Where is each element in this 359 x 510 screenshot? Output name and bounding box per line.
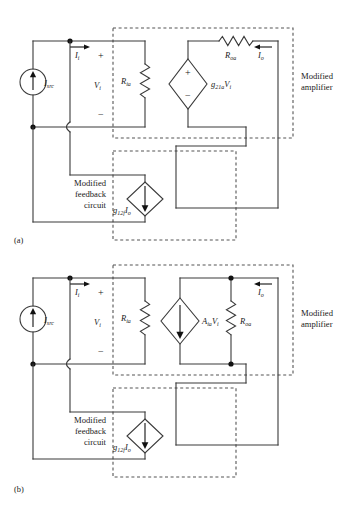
input-current-label-b: Ii: [74, 287, 80, 298]
dependent-source-label-b: AiaVi: [201, 316, 219, 327]
feedback-source-label-a: g12fIo: [113, 205, 131, 216]
current-source-a: [20, 41, 46, 127]
amplifier-box-label-a-line2: amplifier: [301, 82, 333, 92]
dependent-current-source-b: [161, 278, 199, 364]
input-current-arrow-b: [70, 281, 90, 286]
input-resistor-b: [140, 278, 149, 364]
panel-caption-b: (b): [14, 485, 24, 494]
dependent-source-label-a: g21aVi: [211, 79, 231, 90]
input-resistor-a: [140, 41, 149, 127]
labels-b: Isrc Ii + Vi − Ria AiaVi Roa Io Modified…: [14, 287, 334, 494]
feedback-current-source-a: [127, 175, 163, 222]
panel-a-diagram: Isrc Ii + Vi − Ria + − g21aVi Roa Io Mod…: [0, 0, 359, 255]
minus-sign-b: −: [98, 346, 104, 357]
feedback-box-label-a-line1: Modified: [74, 178, 107, 188]
feedback-box-label-a-line3: circuit: [84, 200, 107, 210]
input-current-arrow-a: [70, 44, 90, 49]
feedback-box-label-b-line2: feedback: [75, 426, 107, 436]
output-resistor-label-a: Roa: [224, 50, 236, 61]
node-dot-output-bottom-b: [228, 361, 233, 366]
amplifier-box-label-b-line1: Modified: [301, 308, 334, 318]
labels-a: Isrc Ii + Vi − Ria + − g21aVi Roa Io Mod…: [14, 50, 334, 245]
input-resistor-label-b: Ria: [120, 313, 131, 324]
input-voltage-label-b: Vi: [94, 317, 101, 328]
panel-b-diagram: Isrc Ii + Vi − Ria AiaVi Roa Io Modified…: [0, 255, 359, 510]
feedback-current-source-b: [127, 412, 163, 459]
amplifier-dashed-box-a: [113, 28, 293, 138]
current-source-b: [20, 278, 46, 364]
amplifier-box-label-b-line2: amplifier: [301, 319, 333, 329]
input-resistor-label-a: Ria: [120, 76, 131, 87]
node-dot-output-top-b: [228, 275, 233, 280]
plus-sign-b: +: [98, 287, 104, 298]
plus-sign-a: +: [98, 50, 104, 61]
source-label-a: Isrc: [43, 78, 54, 89]
feedback-box-label-b-line1: Modified: [74, 415, 107, 425]
output-current-label-b: Io: [257, 287, 264, 298]
input-current-label-a: Ii: [74, 50, 80, 61]
feedback-box-label-a-line2: feedback: [75, 189, 107, 199]
output-current-arrow-a: [254, 44, 272, 49]
figure-root: Isrc Ii + Vi − Ria + − g21aVi Roa Io Mod…: [0, 0, 359, 510]
minus-sign-a: −: [98, 109, 104, 120]
input-voltage-label-a: Vi: [94, 80, 101, 91]
feedback-source-label-b: g12fIo: [113, 442, 131, 453]
source-label-b: Isrc: [43, 315, 54, 326]
dependent-voltage-source-a: [169, 41, 207, 127]
output-resistor-b: [226, 278, 235, 364]
feedback-box-label-b-line3: circuit: [84, 437, 107, 447]
amplifier-box-label-a-line1: Modified: [301, 71, 334, 81]
output-current-label-a: Io: [257, 50, 264, 61]
output-resistor-a: [219, 36, 253, 45]
dep-source-minus-a: −: [185, 90, 191, 101]
panel-caption-a: (a): [14, 236, 24, 245]
dep-source-plus-a: +: [185, 67, 191, 78]
output-resistor-label-b: Roa: [239, 316, 251, 327]
output-current-arrow-b: [254, 281, 272, 286]
